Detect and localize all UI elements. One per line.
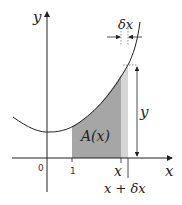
delta-strip bbox=[121, 65, 128, 158]
origin-label: 0 bbox=[38, 163, 44, 173]
area-function-diagram: y x δx y A(x) 0 1 x x + δx bbox=[0, 0, 182, 205]
height-label: y bbox=[139, 103, 149, 121]
tick-x-label: x bbox=[114, 163, 122, 179]
tick-x-plus-dx-label: x + δx bbox=[104, 181, 146, 196]
area-label: A(x) bbox=[79, 128, 110, 144]
delta-x-label: δx bbox=[118, 17, 134, 32]
x-axis-label: x bbox=[165, 162, 174, 180]
tick-one-label: 1 bbox=[70, 166, 76, 176]
y-axis-label: y bbox=[32, 8, 42, 26]
